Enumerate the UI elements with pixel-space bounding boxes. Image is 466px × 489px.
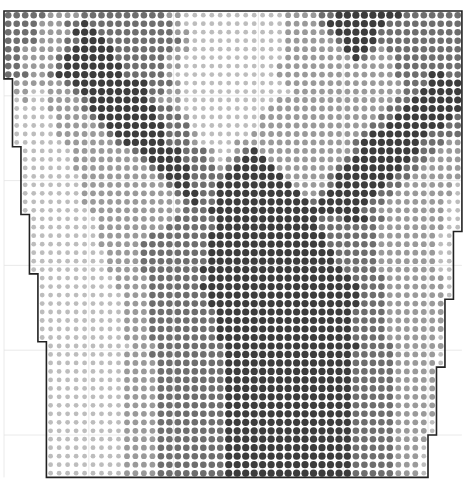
pattern-outline [4,11,462,477]
grid-guide-lines [4,11,462,477]
dot-pattern-chart [0,0,466,489]
pattern-dots [5,12,461,477]
